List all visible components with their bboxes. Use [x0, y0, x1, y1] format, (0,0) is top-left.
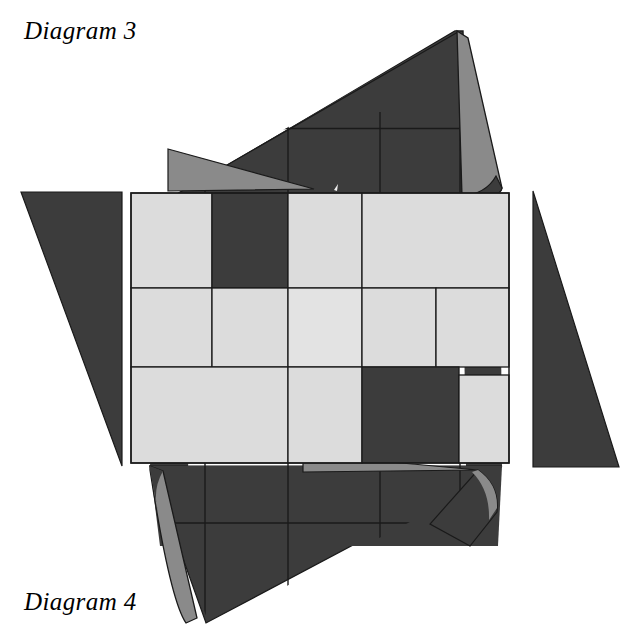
diagram-canvas: Diagram 3 Diagram 4	[0, 0, 630, 632]
cell-r3c5	[459, 375, 509, 463]
cell-r1c3	[288, 193, 362, 288]
cell-r3c1	[131, 367, 288, 463]
cell-r1c4	[362, 193, 509, 288]
cell-r2c4	[362, 288, 436, 367]
bottom-flap-group	[140, 454, 510, 628]
cell-r2c3	[288, 288, 362, 367]
top-fold-curl	[457, 31, 502, 197]
cell-r1c2	[212, 193, 288, 288]
diagram-label-bottom: Diagram 4	[24, 589, 137, 614]
diagram-label-top: Diagram 3	[24, 18, 137, 43]
right-dark-triangle	[533, 191, 619, 467]
cell-r2c2	[212, 288, 288, 367]
cell-r3c3	[288, 367, 362, 463]
cell-r3c4	[362, 367, 459, 463]
cell-r2c1	[131, 288, 212, 367]
left-dark-triangle	[21, 192, 122, 466]
checkerboard-grid	[131, 193, 509, 463]
top-flap-group	[120, 30, 502, 200]
folded-quilt-figure	[0, 0, 630, 632]
cell-r2c5	[436, 288, 509, 367]
cell-r1c1	[131, 193, 212, 288]
